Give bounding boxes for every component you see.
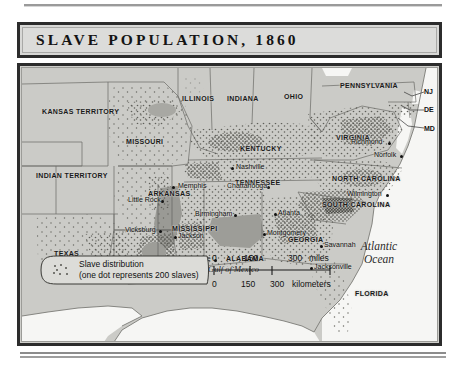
city-dot-richmond (388, 142, 391, 145)
map-scale-bars: 0 150 300 miles 0 150 300 kilometers (212, 253, 372, 299)
city-dot-chattanooga (267, 186, 270, 189)
city-dot-jackson (174, 236, 177, 239)
city-dot-memphis (172, 186, 175, 189)
map-title-block: SLAVE POPULATION, 1860 (17, 22, 442, 58)
legend-dot-swatch (51, 262, 73, 278)
map-geography-svg (22, 68, 438, 342)
city-dot-little-rock (161, 200, 164, 203)
page-root: SLAVE POPULATION, 1860 (0, 0, 466, 375)
scale-miles-tick-0: 0 (212, 253, 217, 263)
scale-km-tick-150: 150 (241, 279, 255, 289)
scale-miles-unit: miles (309, 253, 329, 263)
map-frame: KANSAS TERRITORY INDIAN TERRITORY MISSOU… (17, 63, 442, 346)
bottom-divider-rule (0, 352, 466, 358)
city-dot-atlanta (274, 213, 277, 216)
legend-text-block: Slave distribution (one dot represents 2… (79, 259, 199, 281)
legend-line-1: Slave distribution (79, 259, 199, 270)
scale-km-tick-300: 300 (270, 279, 284, 289)
page-title: SLAVE POPULATION, 1860 (23, 31, 299, 49)
city-dot-vicksburg (159, 230, 162, 233)
city-dot-savannah (320, 245, 323, 248)
scale-km-tick-0: 0 (212, 279, 217, 289)
map-canvas: KANSAS TERRITORY INDIAN TERRITORY MISSOU… (21, 67, 438, 342)
city-dot-norfolk (400, 155, 403, 158)
top-divider-rule (0, 4, 466, 7)
map-title-inner: SLAVE POPULATION, 1860 (22, 27, 437, 53)
legend-line-2: (one dot represents 200 slaves) (79, 270, 199, 281)
scale-miles-tick-300: 300 (288, 253, 302, 263)
city-dot-birmingham (234, 214, 237, 217)
city-dot-wilmington (386, 194, 389, 197)
city-dot-nashville (231, 167, 234, 170)
scale-km-unit: kilometers (292, 279, 331, 289)
city-dot-montgomery (263, 233, 266, 236)
shade-missouri-boonslick (148, 103, 176, 117)
map-legend: Slave distribution (one dot represents 2… (37, 254, 217, 286)
abbr-leader-lines (390, 86, 426, 134)
scale-miles-tick-150: 150 (244, 253, 258, 263)
